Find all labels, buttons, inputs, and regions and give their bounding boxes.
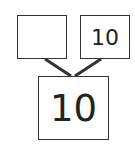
connector-left: [45, 59, 71, 76]
whole-value: 10: [50, 87, 97, 130]
whole-box[interactable]: 10: [38, 76, 109, 140]
connector-right: [75, 59, 101, 76]
part-box-right[interactable]: 10: [80, 15, 130, 59]
part-value-right: 10: [91, 25, 119, 50]
part-box-left[interactable]: [17, 15, 67, 59]
